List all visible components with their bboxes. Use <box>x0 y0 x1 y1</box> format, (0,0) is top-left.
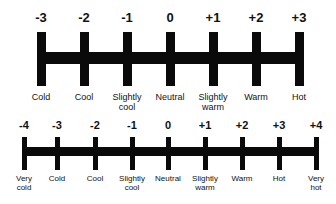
tick-mark <box>277 137 282 170</box>
tick-value: -4 <box>19 119 29 131</box>
tick-label: Veryhot <box>293 174 336 192</box>
tick-value: -2 <box>90 119 100 131</box>
tick-mark <box>240 137 245 170</box>
seven-point-thermal-scale: -3Cold-2Cool-1Slightlycool0Neutral+1Slig… <box>0 0 336 110</box>
tick-mark <box>314 137 319 170</box>
tick-value: +2 <box>236 119 249 131</box>
tick-mark <box>166 137 171 170</box>
tick-value: -3 <box>52 119 62 131</box>
tick-value: -1 <box>121 10 133 25</box>
tick-mark <box>130 137 135 170</box>
tick-value: -1 <box>127 119 137 131</box>
tick-mark <box>22 137 27 170</box>
tick-value: -3 <box>35 10 47 25</box>
tick-mark <box>123 32 132 86</box>
tick-mark <box>203 137 208 170</box>
tick-mark <box>55 137 60 170</box>
tick-value: -2 <box>78 10 90 25</box>
tick-value: +3 <box>273 119 286 131</box>
tick-mark <box>93 137 98 170</box>
tick-mark <box>166 32 175 86</box>
tick-value: +4 <box>310 119 323 131</box>
tick-label: Hot <box>269 92 329 102</box>
tick-value: +1 <box>206 10 221 25</box>
tick-mark <box>209 32 218 86</box>
tick-value: +2 <box>249 10 264 25</box>
tick-mark <box>37 32 46 86</box>
tick-mark <box>80 32 89 86</box>
tick-mark <box>295 32 304 86</box>
tick-value: 0 <box>165 119 171 131</box>
tick-value: +1 <box>199 119 212 131</box>
tick-value: +3 <box>292 10 307 25</box>
nine-point-thermal-scale: -4Verycold-3Cold-2Cool-1Slightlycool0Neu… <box>0 110 336 204</box>
tick-value: 0 <box>166 10 173 25</box>
tick-mark <box>252 32 261 86</box>
